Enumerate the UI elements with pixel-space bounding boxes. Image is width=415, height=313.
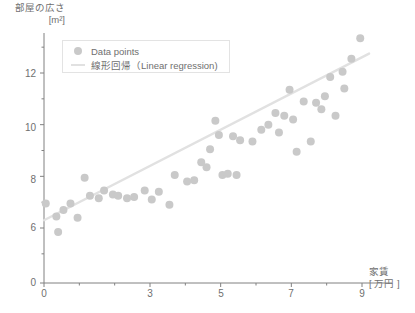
data-point xyxy=(280,112,288,120)
data-point xyxy=(203,163,211,171)
data-point xyxy=(300,97,308,105)
data-point xyxy=(86,192,94,200)
chart-legend: Data points 線形回帰（Linear regression) xyxy=(62,40,230,73)
data-point xyxy=(171,171,179,179)
legend-label-regression: 線形回帰（Linear regression) xyxy=(91,60,218,71)
legend-item-regression: 線形回帰（Linear regression) xyxy=(71,58,218,72)
data-point xyxy=(100,187,108,195)
data-point xyxy=(141,187,149,195)
legend-dot-icon xyxy=(74,47,82,55)
legend-label-data-points: Data points xyxy=(91,46,139,57)
data-point xyxy=(224,170,232,178)
data-point xyxy=(257,126,265,134)
data-point xyxy=(130,193,138,201)
data-point xyxy=(248,137,256,145)
data-point xyxy=(183,178,191,186)
data-point xyxy=(215,131,223,139)
data-point xyxy=(42,199,50,207)
data-point xyxy=(286,86,294,94)
data-point xyxy=(264,121,272,129)
data-point xyxy=(52,212,60,220)
scatter-chart-figure: 部屋の広さ[m²] 家賃[ 万円 ] 0 6 8 10 12 0 3 5 7 9… xyxy=(0,0,415,313)
data-point xyxy=(206,145,214,153)
data-point xyxy=(339,68,347,76)
data-point xyxy=(326,73,334,81)
data-point xyxy=(233,171,241,179)
data-point xyxy=(356,34,364,42)
data-point xyxy=(95,194,103,202)
data-point xyxy=(165,201,173,209)
data-point xyxy=(74,214,82,222)
data-point xyxy=(271,109,279,117)
data-point xyxy=(54,228,62,236)
data-point xyxy=(236,136,244,144)
data-point xyxy=(59,206,67,214)
data-point xyxy=(190,176,198,184)
data-point xyxy=(81,174,89,182)
data-point xyxy=(321,92,329,100)
data-point xyxy=(289,116,297,124)
data-point xyxy=(123,194,131,202)
data-point xyxy=(347,55,355,63)
data-point xyxy=(148,196,156,204)
data-point xyxy=(307,137,315,145)
data-point xyxy=(340,85,348,93)
data-point xyxy=(317,105,325,113)
data-point xyxy=(211,117,219,125)
data-point xyxy=(332,112,340,120)
data-point xyxy=(275,128,283,136)
legend-line-icon xyxy=(71,64,85,66)
data-point xyxy=(114,192,122,200)
data-point xyxy=(67,199,75,207)
data-point xyxy=(293,148,301,156)
legend-item-data-points: Data points xyxy=(71,44,139,58)
data-point xyxy=(229,132,237,140)
data-point xyxy=(312,99,320,107)
data-point xyxy=(155,188,163,196)
